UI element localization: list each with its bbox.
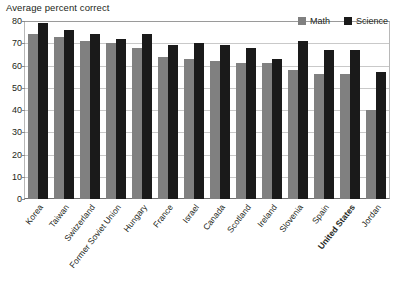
y-axis-tick-label: 50 xyxy=(2,83,22,92)
bar-group xyxy=(233,21,259,199)
x-axis-label: Israel xyxy=(181,203,201,225)
bar-group xyxy=(181,21,207,199)
y-axis-tick-label: 10 xyxy=(2,172,22,181)
bars-layer xyxy=(25,21,389,199)
bar-group xyxy=(103,21,129,199)
x-axis-label-cell: Taiwan xyxy=(51,200,77,292)
bar-group xyxy=(285,21,311,199)
y-axis-tick-label: 60 xyxy=(2,61,22,70)
legend-item-math: Math xyxy=(298,16,330,26)
x-axis-label: Taiwan xyxy=(48,203,71,229)
x-axis-label: Ireland xyxy=(256,203,279,229)
bar-science xyxy=(376,72,386,199)
bar-math xyxy=(184,59,194,199)
bar-math xyxy=(340,74,350,199)
chart-title: Average percent correct xyxy=(6,2,110,13)
bar-group xyxy=(337,21,363,199)
bar-group xyxy=(77,21,103,199)
bar-science xyxy=(116,39,126,199)
bar-math xyxy=(54,37,64,199)
bar-science xyxy=(272,59,282,199)
x-axis-label-cell: France xyxy=(155,200,181,292)
bar-math xyxy=(366,110,376,199)
bar-group xyxy=(51,21,77,199)
bar-science xyxy=(90,34,100,199)
x-axis-label-cell: Former Soviet Union xyxy=(103,200,129,292)
y-axis-tick-label: 20 xyxy=(2,150,22,159)
chart-legend: Math Science xyxy=(298,16,388,26)
legend-label-science: Science xyxy=(356,16,388,26)
x-axis-label-cell: Korea xyxy=(25,200,51,292)
x-axis-label-cell: Hungary xyxy=(129,200,155,292)
x-axis-label: France xyxy=(152,203,175,229)
legend-swatch-science-icon xyxy=(344,17,352,25)
bar-science xyxy=(194,43,204,199)
bar-science xyxy=(64,30,74,199)
y-axis-tick-label: 70 xyxy=(2,39,22,48)
x-axis-label-cell: Ireland xyxy=(259,200,285,292)
bar-group xyxy=(129,21,155,199)
bar-math xyxy=(314,74,324,199)
x-axis-label: Korea xyxy=(24,203,45,226)
bar-group xyxy=(363,21,389,199)
bar-math xyxy=(158,57,168,199)
bar-math xyxy=(288,70,298,199)
bar-science xyxy=(142,34,152,199)
bar-math xyxy=(80,41,90,199)
bar-group xyxy=(259,21,285,199)
x-axis-label: Spain xyxy=(311,203,331,225)
legend-swatch-math-icon xyxy=(298,17,306,25)
y-axis-tick-label: 30 xyxy=(2,128,22,137)
x-axis-label-cell: United States xyxy=(337,200,363,292)
x-axis-label: Jordan xyxy=(360,203,383,229)
x-axis-labels: KoreaTaiwanSwitzerlandFormer Soviet Unio… xyxy=(25,200,389,292)
bar-science xyxy=(350,50,360,199)
x-axis-label-cell: Scotland xyxy=(233,200,259,292)
bar-group xyxy=(311,21,337,199)
x-axis-label-cell: Israel xyxy=(181,200,207,292)
y-axis-tick-label: 0 xyxy=(2,195,22,204)
bar-science xyxy=(168,45,178,199)
bar-group xyxy=(155,21,181,199)
bar-math xyxy=(28,34,38,199)
x-axis-label-cell: Jordan xyxy=(363,200,389,292)
bar-math xyxy=(210,61,220,199)
bar-math xyxy=(236,63,246,199)
bar-group xyxy=(25,21,51,199)
bar-science xyxy=(324,50,334,199)
bar-group xyxy=(207,21,233,199)
bar-math xyxy=(262,63,272,199)
bar-chart: Average percent correct Math Science 807… xyxy=(0,0,396,292)
x-axis-label-cell: Slovenia xyxy=(285,200,311,292)
y-axis-tick-label: 40 xyxy=(2,106,22,115)
y-axis-tick-label: 80 xyxy=(2,17,22,26)
bar-science xyxy=(38,23,48,199)
bar-science xyxy=(246,48,256,199)
legend-item-science: Science xyxy=(344,16,388,26)
bar-science xyxy=(220,45,230,199)
bar-math xyxy=(106,43,116,199)
x-axis-label-cell: Canada xyxy=(207,200,233,292)
bar-math xyxy=(132,48,142,199)
legend-label-math: Math xyxy=(310,16,330,26)
bar-science xyxy=(298,41,308,199)
